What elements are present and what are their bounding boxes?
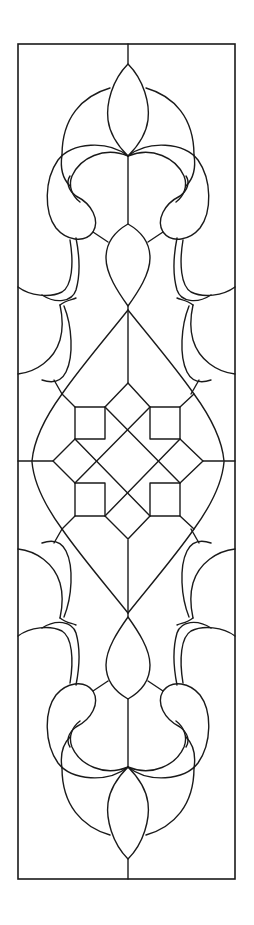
diagonal-d xyxy=(105,439,180,516)
lower-leaf-outer-left xyxy=(18,305,62,374)
square-upper-left xyxy=(75,407,105,439)
lower-leaf-outer-right xyxy=(191,305,235,374)
scroll-inner-left xyxy=(70,152,128,202)
lower-leaf-inner-right xyxy=(182,306,211,382)
upper-leaf-inner-right xyxy=(174,238,211,301)
lower-half-motif xyxy=(18,462,235,879)
upper-leaf-outer-right xyxy=(181,240,235,295)
medallion-diamond-right xyxy=(180,439,203,483)
scroll-inner-right xyxy=(128,152,186,202)
upper-half-motif xyxy=(18,44,235,461)
leaf-tail-left xyxy=(54,380,62,394)
upper-leaf-inner-left xyxy=(42,238,79,301)
lower-leaf-inner-left xyxy=(42,306,71,382)
medallion-diamond-top xyxy=(105,383,150,407)
central-medallion xyxy=(53,383,203,539)
medallion-diamond-left xyxy=(53,439,75,483)
connector-right xyxy=(148,232,163,242)
diagonal-a xyxy=(105,407,180,483)
stained-glass-pattern xyxy=(0,0,254,925)
square-lower-right xyxy=(150,483,180,516)
tie-upper-left xyxy=(62,394,75,407)
top-lens xyxy=(108,64,149,156)
tie-lower-right xyxy=(180,516,194,529)
middle-lens xyxy=(106,224,150,306)
tie-upper-right xyxy=(180,394,194,407)
medallion-diamond-bottom xyxy=(105,516,150,539)
upper-leaf-outer-left xyxy=(18,240,72,295)
tie-lower-left xyxy=(62,516,75,529)
diagonal-b xyxy=(75,407,150,483)
diagonal-c xyxy=(75,439,150,516)
square-upper-right xyxy=(150,407,180,439)
connector-left xyxy=(93,232,108,242)
square-lower-left xyxy=(75,483,105,516)
